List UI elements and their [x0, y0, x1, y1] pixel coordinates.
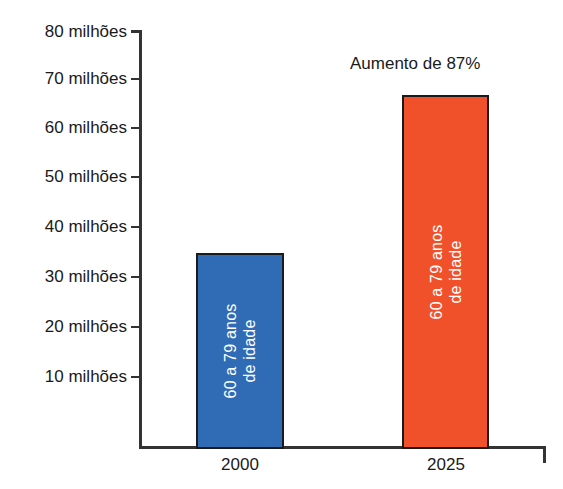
- y-tick-label-70: 70 milhões: [9, 70, 127, 87]
- bar-2000[interactable]: 60 a 79 anos de idade: [196, 253, 284, 449]
- y-tick-label-20: 20 milhões: [9, 318, 127, 335]
- y-tick-label-10-wrap: 10 milhões: [0, 368, 127, 385]
- y-tick-20: [131, 326, 140, 328]
- y-tick-60: [131, 127, 140, 129]
- y-tick-label-40-wrap: 40 milhões: [0, 218, 127, 235]
- x-tick-label-2025: 2025: [376, 455, 516, 475]
- y-tick-label-60: 60 milhões: [9, 119, 127, 136]
- y-tick-label-10: 10 milhões: [9, 368, 127, 385]
- y-tick-10: [131, 376, 140, 378]
- y-axis-line: [139, 30, 142, 448]
- y-tick-label-50: 50 milhões: [9, 168, 127, 185]
- bar-2000-label: 60 a 79 anos de idade: [221, 304, 259, 399]
- y-tick-label-20-wrap: 20 milhões: [0, 318, 127, 335]
- y-tick-label-30: 30 milhões: [9, 268, 127, 285]
- x-tick-label-2000: 2000: [170, 455, 310, 475]
- bar-2025-label: 60 a 79 anos de idade: [427, 225, 465, 320]
- y-tick-label-60-wrap: 60 milhões: [0, 119, 127, 136]
- y-tick-50: [131, 176, 140, 178]
- y-tick-label-50-wrap: 50 milhões: [0, 168, 127, 185]
- bar-2025[interactable]: 60 a 79 anos de idade: [402, 95, 489, 449]
- bar-chart: 80 milhões 70 milhões 60 milhões 50 milh…: [0, 0, 563, 489]
- y-tick-label-70-wrap: 70 milhões: [0, 70, 127, 87]
- y-tick-40: [131, 226, 140, 228]
- x-axis-right-cap: [543, 446, 546, 463]
- y-tick-label-30-wrap: 30 milhões: [0, 268, 127, 285]
- increase-annotation: Aumento de 87%: [350, 54, 480, 74]
- y-tick-label-80: 80 milhões: [9, 23, 127, 40]
- y-tick-30: [131, 276, 140, 278]
- y-tick-80: [131, 31, 140, 33]
- y-tick-label-80-wrap: 80 milhões: [0, 23, 127, 40]
- y-tick-label-40: 40 milhões: [9, 218, 127, 235]
- y-tick-70: [131, 78, 140, 80]
